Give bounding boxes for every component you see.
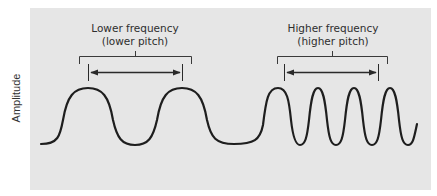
high-frequency-bracket: [278, 51, 388, 64]
sound-wave: [41, 88, 417, 145]
low-frequency-wavelength-arrow: [89, 64, 183, 81]
high-frequency-wavelength-arrow: [285, 64, 379, 81]
low-frequency-bracket: [80, 51, 192, 64]
wave-diagram-graphic: [0, 0, 437, 196]
